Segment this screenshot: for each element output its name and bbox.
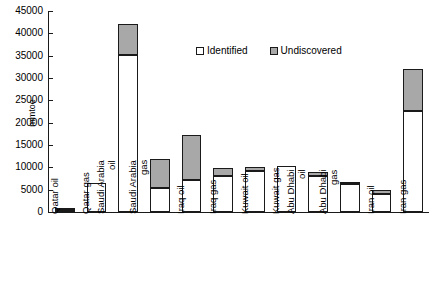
x-axis-label-slot: Saudi Arabia oil [112, 214, 144, 291]
x-axis-tick-label: Kuwait oil [238, 173, 249, 214]
legend-swatch-undiscovered-icon [270, 47, 278, 55]
x-axis-label-slot: Saudi Arabia gas [144, 214, 176, 291]
x-axis-label-slot: Iraq gas [207, 214, 239, 291]
bar-group [366, 11, 398, 212]
y-axis-tick-label: 10000 [15, 162, 43, 172]
x-axis-label-slot: Abu Dhabi gas [334, 214, 366, 291]
x-axis-tick-label: Kuwait gas [270, 168, 281, 214]
x-axis-label-slot: Qatar oil [49, 214, 81, 291]
bar-segment-undiscovered[interactable] [182, 135, 202, 180]
bar-segment-undiscovered[interactable] [245, 167, 265, 171]
y-axis-tick-mark [49, 100, 53, 101]
bar-segment-undiscovered[interactable] [403, 69, 423, 111]
x-axis-label-slot: Abu Dhabi oil [302, 214, 334, 291]
y-axis-tick-mark [49, 33, 53, 34]
x-axis-tick-label: Abu Dhabi gas [317, 170, 339, 214]
legend-swatch-identified-icon [196, 47, 204, 55]
x-axis-label-slot: Kuwait oil [239, 214, 271, 291]
bar-segment-identified[interactable] [340, 184, 360, 212]
x-axis-tick-label: Abu Dhabi oil [285, 170, 307, 214]
bar-segment-undiscovered[interactable] [150, 159, 170, 188]
x-axis-label-slot: Iraq oil [176, 214, 208, 291]
y-axis-tick-mark [49, 56, 53, 57]
y-axis-tick-label: 0 [37, 207, 43, 217]
y-axis-tick-mark [49, 190, 53, 191]
y-axis-tick-label: 15000 [15, 140, 43, 150]
y-axis-tick-label: 30000 [15, 73, 43, 83]
x-axis-tick-label: Saudi Arabia gas [127, 160, 149, 214]
y-axis-tick-label: 45000 [15, 6, 43, 16]
chart-legend: Identified Undiscovered [196, 45, 342, 56]
stacked-bar-chart: mmtoe 4500040000350003000025000200001500… [0, 0, 431, 291]
y-axis-tick-mark [49, 78, 53, 79]
y-axis-tick-mark [49, 167, 53, 168]
x-axis-tick-label: Iran gas [397, 180, 408, 214]
y-axis-tick-label: 5000 [21, 185, 43, 195]
bar-segment-undiscovered[interactable] [213, 168, 233, 176]
x-axis-label-slot: Kuwait gas [271, 214, 303, 291]
x-axis-label-slot: Qatar gas [81, 214, 113, 291]
y-axis-tick-label: 25000 [15, 95, 43, 105]
y-axis-tick-mark [49, 145, 53, 146]
bar-segment-undiscovered[interactable] [118, 24, 138, 55]
legend-label-undiscovered: Undiscovered [281, 45, 342, 56]
x-axis-tick-label: Iraq oil [175, 185, 186, 214]
legend-entry-identified: Identified [196, 45, 248, 56]
x-axis-tick-label: Qatar oil [48, 178, 59, 214]
x-axis-tick-label: Iraq gas [207, 180, 218, 214]
y-axis-tick-mark [49, 212, 53, 213]
x-axis-label-slot: Iran gas [397, 214, 429, 291]
bar-segment-identified[interactable] [150, 188, 170, 212]
x-axis-tick-label: Iran oil [365, 185, 376, 214]
x-axis-label-slot: Iran oil [366, 214, 398, 291]
y-axis-tick-mark [49, 123, 53, 124]
y-axis-tick-labels: 4500040000350003000025000200001500010000… [0, 0, 46, 291]
bar-segment-undiscovered[interactable] [340, 182, 360, 184]
x-axis-tick-labels: Qatar oilQatar gasSaudi Arabia oilSaudi … [49, 214, 429, 291]
y-axis-tick-label: 40000 [15, 28, 43, 38]
y-axis-tick-label: 20000 [15, 118, 43, 128]
legend-entry-undiscovered: Undiscovered [270, 45, 342, 56]
y-axis-tick-label: 35000 [15, 51, 43, 61]
bar-group [176, 11, 208, 212]
y-axis-tick-mark [49, 11, 53, 12]
x-axis-tick-label: Saudi Arabia oil [95, 160, 117, 214]
legend-label-identified: Identified [207, 45, 248, 56]
x-axis-tick-label: Qatar gas [80, 172, 91, 214]
